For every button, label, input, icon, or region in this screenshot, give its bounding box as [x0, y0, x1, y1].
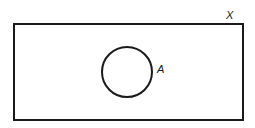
venn-diagram: X A [0, 0, 255, 128]
universal-set-label: X [225, 9, 234, 21]
set-a-label: A [156, 63, 164, 75]
set-a-circle [102, 47, 152, 97]
universal-set-rectangle [14, 24, 243, 120]
